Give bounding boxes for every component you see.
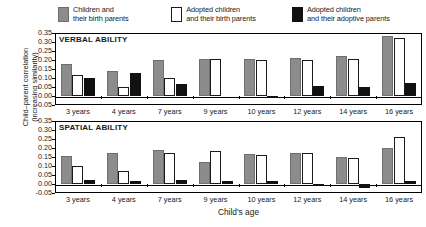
x-tick-mark [376, 184, 377, 187]
x-tick-mark [330, 96, 331, 99]
panel-title-verbal: VERBAL ABILITY [59, 35, 128, 44]
bar [256, 155, 267, 184]
x-tick-label: 16 years [376, 194, 422, 206]
y-tick-label: 0.25 [38, 135, 52, 142]
x-tick-mark [147, 96, 148, 99]
bar [107, 153, 118, 185]
bar [153, 150, 164, 184]
bar [210, 151, 221, 184]
bar [382, 36, 393, 96]
bar [267, 96, 278, 98]
x-tick-mark [376, 96, 377, 99]
bars [193, 121, 239, 193]
x-tick-mark [330, 184, 331, 187]
x-tick-mark [147, 184, 148, 187]
bar [244, 59, 255, 96]
bar [302, 60, 313, 96]
bar [336, 157, 347, 184]
bar [222, 181, 233, 184]
x-tick-label: 16 years [376, 106, 422, 118]
bar-group [239, 33, 285, 105]
x-tick-label: 10 years [239, 106, 285, 118]
bar [164, 153, 175, 185]
bar [267, 181, 278, 184]
legend-swatch-gray-icon [58, 7, 69, 22]
bar [130, 181, 141, 184]
x-tick-mark [284, 184, 285, 187]
x-tick-label: 7 years [147, 106, 193, 118]
x-tick-label: 4 years [101, 106, 147, 118]
bar [313, 184, 324, 186]
legend-swatch-white-icon [171, 7, 182, 22]
y-axis-ticks-verbal: 0.350.300.250.200.150.100.050.00-0.05 [29, 33, 55, 105]
bar-group [147, 33, 193, 105]
x-tick-label: 7 years [147, 194, 193, 206]
figure: Children and their birth parents Adopted… [0, 0, 426, 227]
x-tick-mark [55, 96, 56, 99]
x-tick-mark [239, 184, 240, 187]
bars [330, 33, 376, 105]
y-tick-label: 0.35 [38, 29, 52, 36]
bar-group [193, 121, 239, 193]
x-tick-label: 9 years [193, 194, 239, 206]
bar [199, 162, 210, 185]
bars [147, 33, 193, 105]
bar-group [239, 121, 285, 193]
bar [61, 64, 72, 96]
x-axis-labels-spatial: 3 years4 years7 years9 years10 years12 y… [55, 194, 422, 206]
x-tick-label: 12 years [284, 194, 330, 206]
x-axis-title: Child's age [55, 207, 422, 217]
bar [61, 156, 72, 184]
x-tick-label: 3 years [55, 194, 101, 206]
bar [313, 86, 324, 96]
x-tick-label: 10 years [239, 194, 285, 206]
bar-group [147, 121, 193, 193]
x-tick-mark [55, 184, 56, 187]
bar [72, 75, 83, 96]
bar [348, 59, 359, 96]
bar [256, 60, 267, 96]
x-axis-labels-verbal: 3 years4 years7 years9 years10 years12 y… [55, 106, 422, 118]
panel-title-spatial: SPATIAL ABILITY [59, 123, 128, 132]
legend-label: Adopted children and their birth parents [186, 6, 256, 23]
y-tick-label: 0.20 [38, 56, 52, 63]
x-tick-mark [193, 96, 194, 99]
x-tick-mark [101, 184, 102, 187]
bars [284, 33, 330, 105]
bar [84, 78, 95, 96]
bar [176, 180, 187, 185]
bar [153, 60, 164, 96]
bars [239, 33, 285, 105]
panel-spatial: SPATIAL ABILITY 0.350.300.250.200.150.10… [55, 121, 422, 193]
bar [302, 153, 313, 185]
bars [376, 33, 422, 105]
bar [118, 171, 129, 185]
bar [118, 87, 129, 96]
legend-item-adopted-birth-parents: Adopted children and their birth parents [171, 6, 292, 23]
y-tick-label: -0.05 [36, 101, 52, 108]
x-tick-label: 4 years [101, 194, 147, 206]
y-tick-label: 0.10 [38, 162, 52, 169]
bar-group [284, 33, 330, 105]
y-tick-label: 0.30 [38, 38, 52, 45]
x-tick-label: 14 years [330, 106, 376, 118]
bar [394, 38, 405, 96]
y-tick-label: 0.00 [38, 92, 52, 99]
x-tick-label: 12 years [284, 106, 330, 118]
x-tick-label: 3 years [55, 106, 101, 118]
chart-legend: Children and their birth parents Adopted… [58, 6, 424, 32]
legend-label: Adopted children and their adoptive pare… [307, 6, 390, 23]
bar [348, 158, 359, 184]
bar [336, 56, 347, 96]
bar [176, 84, 187, 96]
bar [130, 73, 141, 96]
y-tick-label: 0.25 [38, 47, 52, 54]
bar [84, 180, 95, 185]
y-tick-label: 0.35 [38, 117, 52, 124]
y-tick-label: 0.10 [38, 74, 52, 81]
bar [164, 78, 175, 96]
bar [72, 166, 83, 184]
y-tick-label: -0.05 [36, 189, 52, 196]
legend-label: Children and their birth parents [73, 6, 129, 23]
bar [405, 83, 416, 97]
